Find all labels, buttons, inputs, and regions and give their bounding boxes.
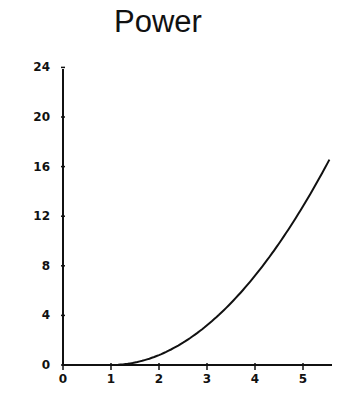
y-tick-label: 4 (42, 308, 50, 322)
y-tick-label: 8 (42, 259, 50, 273)
x-ticks: 012345 (59, 363, 307, 386)
y-tick-label: 24 (33, 60, 50, 74)
y-tick-label: 12 (33, 209, 50, 223)
y-tick-label: 16 (33, 160, 50, 174)
x-tick-label: 2 (155, 372, 163, 386)
x-tick-label: 0 (59, 372, 67, 386)
x-tick-label: 4 (251, 372, 259, 386)
power-curve (111, 160, 329, 365)
x-tick-label: 1 (107, 372, 115, 386)
y-ticks: 04812162024 (33, 60, 65, 372)
y-tick-label: 20 (33, 110, 50, 124)
x-tick-label: 3 (203, 372, 211, 386)
y-tick-label: 0 (42, 358, 50, 372)
x-tick-label: 5 (299, 372, 307, 386)
chart-plot: 04812162024 012345 (0, 0, 343, 399)
